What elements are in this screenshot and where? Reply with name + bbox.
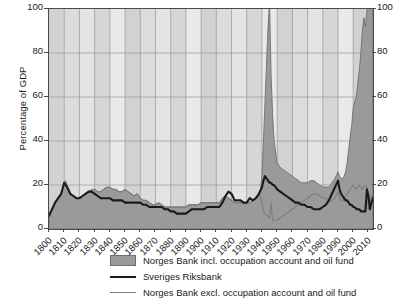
y-tick-label-right: 40	[377, 134, 403, 144]
y-tick-mark-right	[372, 96, 376, 97]
y-tick-label-left: 100	[17, 2, 43, 12]
chart-figure: Percentage of GDP 020406080100 020406080…	[0, 0, 414, 306]
y-tick-mark-left	[44, 140, 48, 141]
y-tick-mark-left	[44, 52, 48, 53]
chart-canvas	[49, 9, 373, 229]
y-tick-label-left: 40	[17, 134, 43, 144]
y-tick-mark-right	[372, 140, 376, 141]
background-band	[155, 9, 170, 229]
legend-label: Norges Bank incl. occupation account and…	[143, 255, 354, 266]
y-tick-label-left: 20	[17, 178, 43, 188]
legend-swatch-line-thin-icon	[110, 287, 136, 298]
y-tick-label-right: 20	[377, 178, 403, 188]
background-band	[140, 9, 155, 229]
legend-item[interactable]: Norges Bank excl. occupation account and…	[110, 284, 410, 300]
chart-legend: Norges Bank incl. occupation account and…	[110, 252, 410, 300]
y-tick-label-right: 60	[377, 90, 403, 100]
y-tick-label-right: 100	[377, 2, 403, 12]
y-tick-label-left: 0	[17, 222, 43, 232]
background-band	[186, 9, 201, 229]
y-tick-mark-right	[372, 184, 376, 185]
y-tick-label-left: 80	[17, 46, 43, 56]
background-band	[232, 9, 247, 229]
legend-label: Norges Bank excl. occupation account and…	[143, 287, 356, 298]
y-tick-mark-left	[44, 96, 48, 97]
y-tick-label-right: 80	[377, 46, 403, 56]
background-band	[201, 9, 216, 229]
y-tick-label-right: 0	[377, 222, 403, 232]
legend-label: Sveriges Riksbank	[143, 271, 222, 282]
legend-item[interactable]: Sveriges Riksbank	[110, 268, 410, 284]
plot-area	[48, 8, 374, 230]
y-tick-label-left: 60	[17, 90, 43, 100]
legend-swatch-line-thick-icon	[110, 271, 136, 282]
background-band	[216, 9, 231, 229]
y-tick-mark-left	[44, 228, 48, 229]
y-tick-mark-right	[372, 52, 376, 53]
y-tick-mark-left	[44, 184, 48, 185]
background-band	[171, 9, 186, 229]
legend-swatch-patch-icon	[110, 255, 136, 266]
y-tick-mark-right	[372, 228, 376, 229]
y-tick-mark-right	[372, 8, 376, 9]
legend-item[interactable]: Norges Bank incl. occupation account and…	[110, 252, 410, 268]
y-tick-mark-left	[44, 8, 48, 9]
